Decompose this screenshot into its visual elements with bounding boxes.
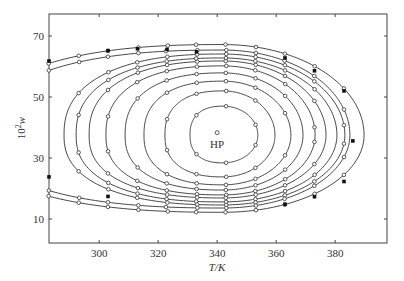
open-marker [283,154,287,158]
open-marker [195,65,199,69]
open-marker [224,161,228,165]
open-marker [254,55,258,59]
open-marker [77,113,81,117]
open-marker [195,187,199,191]
y-tick-label: 70 [33,30,45,42]
open-marker [254,208,258,212]
open-marker [77,91,81,95]
filled-marker [283,56,287,60]
open-marker [165,91,169,95]
open-marker [342,155,346,159]
open-marker [47,189,51,193]
open-marker [194,57,198,61]
open-marker [342,173,346,177]
open-marker [166,44,170,48]
filled-marker [106,195,110,199]
curve-4 [125,73,303,190]
axis-ticks: 30032034036038010305070 [33,14,387,259]
open-marker [224,104,228,108]
open-marker [136,166,140,170]
open-marker [77,201,81,205]
open-marker [106,200,110,204]
open-marker [136,97,140,101]
open-marker [166,55,170,59]
open-marker [106,149,110,153]
filled-marker [283,203,287,207]
open-marker [195,92,199,96]
open-marker [107,70,111,74]
y-tick-label: 30 [33,152,45,164]
y-tick-label: 50 [33,91,45,103]
open-marker [135,196,139,200]
open-marker [135,60,139,64]
open-marker [165,189,169,193]
open-marker [283,52,287,56]
open-marker [312,74,316,78]
open-marker [313,64,317,68]
x-tick-label: 300 [91,247,108,259]
open-marker [254,59,258,63]
open-marker [283,74,287,78]
open-marker [224,52,228,56]
open-marker [106,115,110,119]
open-marker [136,186,140,190]
open-marker [313,99,317,103]
open-marker [312,80,316,84]
open-marker [165,193,169,197]
open-marker [165,148,169,152]
filled-marker [342,89,346,93]
open-marker [164,205,168,209]
open-marker [254,193,258,197]
open-marker [224,183,228,187]
open-marker [342,108,346,112]
curve-9 [0,50,350,208]
open-marker [77,151,81,155]
open-marker [313,140,317,144]
open-marker [165,182,169,186]
open-marker [166,210,170,214]
open-marker [107,181,111,185]
filled-marker [136,47,140,51]
open-marker [47,194,51,198]
open-marker [224,210,228,214]
contour-chart: 30032034036038010305070 HP T/K 102w [0,0,404,281]
curve-7 [76,58,337,202]
open-marker [283,184,287,188]
open-marker [194,210,198,214]
open-marker [107,78,111,82]
open-marker [254,99,258,103]
open-marker [283,189,287,193]
open-marker [165,69,169,73]
open-marker [136,192,140,196]
open-marker [137,208,141,212]
open-marker [313,125,317,129]
x-tick-label: 320 [150,247,167,259]
open-marker [254,86,258,90]
open-marker [165,59,169,63]
open-marker [136,71,140,75]
hp-label: HP [210,138,224,150]
open-marker [165,63,169,67]
open-marker [224,175,228,179]
open-marker [225,206,229,210]
open-marker [283,168,287,172]
open-marker [253,189,257,193]
open-marker [312,180,316,184]
open-marker [283,63,287,67]
open-marker [165,79,169,83]
filled-marker [313,69,317,73]
open-marker [196,206,200,210]
open-marker [254,76,258,80]
open-marker [224,64,228,68]
x-axis-title: T/K [209,261,226,273]
open-marker [165,117,169,121]
open-marker [224,188,228,192]
open-marker [224,79,228,83]
filled-marker [342,180,346,184]
y-axis-title: 102w [14,116,28,139]
open-marker [225,48,229,52]
data-markers [47,43,355,214]
open-marker [106,55,110,59]
open-marker [224,56,228,60]
open-marker [136,66,140,70]
